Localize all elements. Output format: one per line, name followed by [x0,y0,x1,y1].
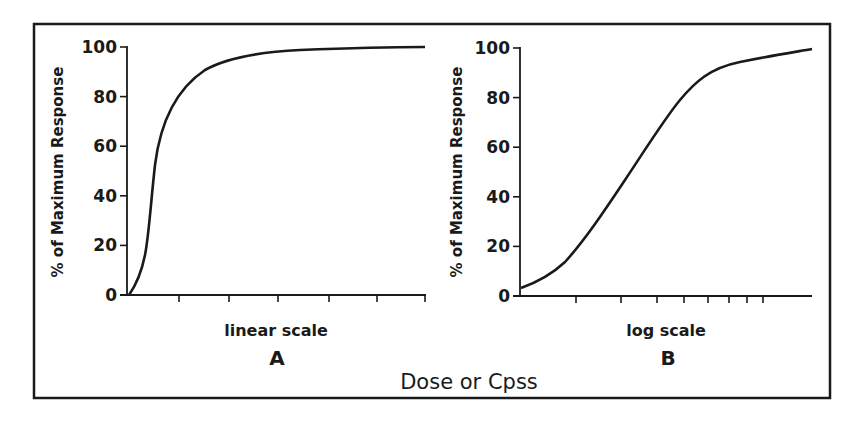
panel-b-x-axis-label: log scale [626,321,706,340]
y-tick-label: 80 [93,87,117,107]
y-tick-label: 100 [475,38,511,58]
panel-a-x-axis-label: linear scale [224,321,328,340]
panel-a: 0 20 40 60 80 100 % of Maximum Response … [49,37,426,370]
panel-a-label: A [269,346,285,370]
y-tick-label: 80 [486,88,510,108]
y-tick-label: 20 [486,236,510,256]
y-tick-label: 40 [93,186,117,206]
y-tick-label: 0 [498,286,510,306]
panel-b-y-axis-label: % of Maximum Response [448,67,466,278]
y-tick-label: 60 [93,136,117,156]
y-tick-label: 60 [486,137,510,157]
shared-x-axis-label: Dose or Cpss [400,370,538,394]
panel-a-y-ticks [120,47,127,295]
figure-frame [34,24,830,398]
panel-b-y-tick-labels: 0 20 40 60 80 100 [475,38,511,306]
y-tick-label: 0 [105,285,117,305]
panel-b-x-ticks [576,296,763,303]
panel-b: 0 20 40 60 80 100 % of Maximum Response … [448,38,812,370]
panel-b-y-ticks [513,48,520,296]
panel-b-curve [521,49,812,288]
panel-a-curve [129,47,425,295]
y-tick-label: 40 [486,187,510,207]
panel-b-label: B [660,346,675,370]
panel-a-y-axis-label: % of Maximum Response [49,67,67,278]
panel-a-y-tick-labels: 0 20 40 60 80 100 [82,37,118,305]
panel-a-x-ticks [179,295,425,302]
y-tick-label: 20 [93,235,117,255]
y-tick-label: 100 [82,37,118,57]
figure: 0 20 40 60 80 100 % of Maximum Response … [0,0,862,422]
